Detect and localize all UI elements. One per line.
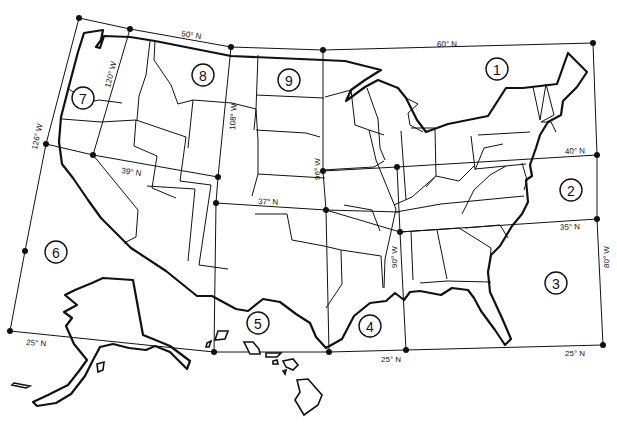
region-marker-3: 3 xyxy=(545,272,567,294)
svg-text:7: 7 xyxy=(79,91,87,107)
border-ar-la xyxy=(341,250,383,288)
border-mn-ia xyxy=(325,90,384,135)
border-wa-id xyxy=(137,41,150,120)
grid-point-dot xyxy=(22,248,28,254)
border-al-ga xyxy=(437,230,447,279)
hawaii-big-island xyxy=(295,379,322,415)
label-lat-60n: 60° N xyxy=(437,40,457,49)
label-lat-39n: 39° N xyxy=(121,166,142,178)
svg-text:5: 5 xyxy=(254,316,262,332)
svg-text:6: 6 xyxy=(52,245,60,261)
label-lon-108w: 108° W xyxy=(228,103,239,130)
region-marker-4: 4 xyxy=(359,315,381,337)
us-region-grid-map: 50° N 60° N 39° N 37° N 40° N 35° N 25° … xyxy=(0,0,617,426)
svg-text:9: 9 xyxy=(285,73,293,89)
border-or-south xyxy=(62,119,186,137)
grid-point-dot xyxy=(323,207,329,213)
border-wv xyxy=(475,144,503,170)
region-marker-7: 7 xyxy=(72,87,94,109)
label-lat-50n: 50° N xyxy=(181,29,202,41)
label-lat-25n-west: 25° N xyxy=(26,338,47,348)
svg-text:3: 3 xyxy=(552,276,560,292)
label-lat-37n: 37° N xyxy=(258,197,279,207)
border-wi-il xyxy=(367,88,385,160)
label-lon-120w: 120° W xyxy=(103,60,118,88)
label-lon-126w: 126° W xyxy=(30,122,44,150)
alaska-outline xyxy=(33,278,190,406)
hawaii-lanai xyxy=(273,360,278,364)
grid-point-markers xyxy=(7,15,606,355)
label-lat-40n: 40° N xyxy=(565,146,586,156)
border-ok-tx xyxy=(326,250,342,308)
border-ny-pa xyxy=(478,132,530,135)
border-mo-ar xyxy=(344,205,380,231)
label-lon-90w: 90° W xyxy=(390,246,399,268)
label-lat-35n: 35° N xyxy=(560,222,581,232)
grid-point-dot xyxy=(43,141,49,147)
lat-line-40n xyxy=(323,155,597,171)
border-il-in xyxy=(401,131,406,200)
lon-line-108w xyxy=(214,47,231,352)
grid-point-dot xyxy=(211,349,217,355)
border-in-oh xyxy=(411,128,436,187)
region-markers: 1 2 3 4 5 6 7 8 9 xyxy=(45,58,582,337)
grid-point-dot xyxy=(326,349,332,355)
grid-point-dot xyxy=(228,44,234,50)
region-marker-9: 9 xyxy=(278,69,300,91)
hawaii-molokai xyxy=(266,353,281,357)
label-lon-96w: 96° W xyxy=(313,158,322,180)
svg-text:1: 1 xyxy=(493,62,501,78)
border-ms-al xyxy=(411,231,413,280)
label-lat-25n-east: 25° N xyxy=(565,349,585,358)
svg-text:8: 8 xyxy=(199,68,207,84)
border-ks-ok xyxy=(255,214,341,250)
border-ohio-river xyxy=(394,166,474,205)
border-va xyxy=(462,166,506,214)
lon-line-80w xyxy=(593,43,603,345)
grid-point-dot xyxy=(7,328,13,334)
border-ut-co xyxy=(180,137,211,185)
hawaii-kahoolawe xyxy=(283,370,286,374)
grid-point-dot xyxy=(403,347,409,353)
region-marker-6: 6 xyxy=(45,241,67,263)
border-az-nm xyxy=(147,186,195,261)
border-ga-fl xyxy=(420,281,491,283)
border-ky-tn xyxy=(396,196,524,212)
grid-point-dot xyxy=(594,216,600,222)
border-tn-ms-al xyxy=(400,228,459,232)
grid-point-dot xyxy=(320,47,326,53)
border-nd-sd xyxy=(256,95,324,98)
grid-point-dot xyxy=(397,229,403,235)
border-mt-south xyxy=(188,100,193,148)
border-pa xyxy=(471,136,526,169)
hawaii-kauai xyxy=(215,331,228,340)
grid-point-dot xyxy=(90,152,96,158)
grid-lines xyxy=(10,18,603,352)
region-marker-5: 5 xyxy=(247,312,269,334)
kodiak-island xyxy=(97,362,104,372)
border-new-england xyxy=(533,84,556,132)
border-nm xyxy=(199,185,228,269)
lat-line-north xyxy=(79,18,593,50)
grid-point-dot xyxy=(76,15,82,21)
border-ga-sc xyxy=(459,228,491,262)
lat-line-35n xyxy=(326,210,597,232)
grid-point-dot xyxy=(215,174,221,180)
label-lon-80w: 80° W xyxy=(602,246,611,268)
lon-line-126w xyxy=(10,18,79,331)
grid-point-dot xyxy=(600,342,606,348)
grid-point-dot xyxy=(127,26,133,32)
aleutian-island-1 xyxy=(12,383,30,388)
region-marker-2: 2 xyxy=(560,179,582,201)
grid-point-dot xyxy=(394,164,400,170)
svg-text:4: 4 xyxy=(366,319,374,335)
grid-point-dot xyxy=(590,40,596,46)
hawaii xyxy=(206,331,322,415)
hawaii-niihau xyxy=(206,341,211,347)
grid-point-dot xyxy=(213,200,219,206)
hawaii-maui xyxy=(283,359,298,370)
region-marker-1: 1 xyxy=(486,58,508,80)
border-mt-nd xyxy=(254,55,258,130)
region-marker-8: 8 xyxy=(192,64,214,86)
grid-point-dot xyxy=(594,152,600,158)
